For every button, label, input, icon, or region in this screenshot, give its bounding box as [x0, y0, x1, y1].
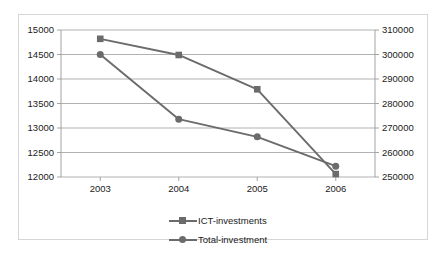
category-tick-label: 2004 [154, 184, 204, 194]
data-point-ict-investments [254, 86, 261, 93]
legend-marker-circle-icon [169, 234, 197, 245]
legend-item: ICT-investments [169, 211, 389, 230]
left-axis-tick-label: 12500 [19, 148, 54, 158]
data-point-total-investment [332, 163, 339, 170]
right-axis-tick-label: 300000 [382, 50, 414, 60]
data-point-total-investment [175, 116, 182, 123]
left-axis-tick-label: 12000 [19, 172, 54, 182]
legend-item-label: ICT-investments [198, 215, 267, 226]
left-axis-tick-label: 14500 [19, 50, 54, 60]
left-axis-tick-label: 13000 [19, 123, 54, 133]
legend-key-marker [179, 236, 186, 243]
line-chart-plot [19, 15, 429, 241]
right-axis-tick-label: 280000 [382, 99, 414, 109]
legend-marker-square-icon [169, 215, 197, 226]
data-point-total-investment [97, 51, 104, 58]
left-axis-tick-label: 15000 [19, 25, 54, 35]
right-axis-tick-label: 270000 [382, 123, 414, 133]
legend-item: Total-investment [169, 230, 389, 249]
data-point-ict-investments [97, 36, 104, 43]
left-axis-tick-label: 13500 [19, 99, 54, 109]
category-tick-label: 2005 [232, 184, 282, 194]
right-axis-tick-label: 290000 [382, 74, 414, 84]
legend-item-label: Total-investment [198, 234, 267, 245]
category-tick-label: 2003 [75, 184, 125, 194]
right-axis-tick-label: 260000 [382, 148, 414, 158]
chart-figure: 1200012500130001350014000145001500025000… [0, 0, 446, 263]
legend-key-marker [179, 217, 186, 224]
chart-frame: 1200012500130001350014000145001500025000… [18, 14, 428, 240]
data-point-total-investment [254, 133, 261, 140]
chart-legend: ICT-investmentsTotal-investment [169, 211, 389, 249]
data-point-ict-investments [332, 171, 339, 178]
category-tick-label: 2006 [311, 184, 361, 194]
right-axis-tick-label: 310000 [382, 25, 414, 35]
right-axis-tick-label: 250000 [382, 172, 414, 182]
data-point-ict-investments [175, 52, 182, 59]
left-axis-tick-label: 14000 [19, 74, 54, 84]
